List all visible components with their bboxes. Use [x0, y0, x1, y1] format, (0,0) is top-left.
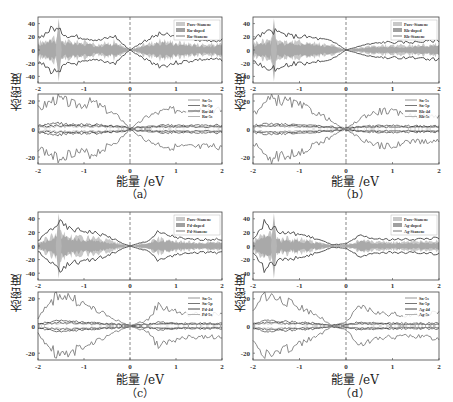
dos-chart-b: 40200-20-40-2-1012Pure-StaneneRh-dopedRh… [227, 0, 453, 200]
x-tick-label: 0 [128, 85, 132, 93]
x-tick-label: -1 [297, 282, 303, 290]
legend-entry: Pure-Stanene [404, 217, 428, 222]
y-tick-label: 40 [28, 20, 36, 28]
x-tick-label: -2 [35, 282, 41, 290]
y-tick-label: -20 [26, 60, 36, 68]
y-axis-label-b: 态密度 [232, 72, 249, 111]
legend-entry: Rh-5s [419, 114, 430, 119]
legend-entry: Ru-doped [187, 28, 205, 33]
y-tick-label: 0 [247, 47, 251, 55]
x-tick-label: -2 [35, 363, 41, 371]
x-tick-label: 1 [391, 85, 395, 93]
tdos-legend: Pure-StaneneRh-dopedRh-Stanene [391, 20, 437, 40]
x-tick-label: -1 [81, 167, 87, 175]
panel-a: 40200-20-40-2-1012Pure-StaneneRu-dopedRu… [0, 0, 230, 200]
x-tick-label: 2 [220, 167, 224, 175]
legend-entry: Pd-5s [202, 312, 212, 317]
y-tick-label: 20 [243, 229, 251, 237]
y-tick-label: 20 [28, 295, 36, 303]
x-tick-label: 2 [437, 363, 441, 371]
caption-b: （b） [325, 185, 385, 201]
x-tick-label: -2 [250, 282, 256, 290]
legend-entry: Pd-Stanene [187, 229, 208, 234]
pdos-axes: 200-20-2-1012Sn-5sSn-5pPd-4dPd-5s [26, 292, 225, 371]
pdos-legend: Sn-5sSn-5pPd-4dPd-5s [186, 294, 220, 318]
legend-entry: Sn-5s [202, 98, 212, 103]
y-tick-label: 0 [247, 323, 251, 331]
y-tick-label: 0 [32, 126, 36, 134]
y-tick-label: 40 [243, 215, 251, 223]
y-tick-label: -20 [26, 256, 36, 264]
dos-chart-a: 40200-20-40-2-1012Pure-StaneneRu-dopedRu… [0, 0, 230, 200]
pdos-legend: Sn-5sSn-5pRh-4dRh-5s [403, 96, 437, 120]
x-tick-label: -1 [81, 363, 87, 371]
y-axis-label-d: 态密度 [232, 273, 249, 312]
pdos-axes: 200-20-2-1012Sn-5sSn-5pRh-4dRh-5s [241, 94, 442, 175]
legend-entry: Ru-4d [202, 109, 214, 114]
y-tick-label: -40 [26, 270, 36, 278]
legend-entry: Rh-4d [419, 109, 431, 114]
x-tick-label: 0 [344, 85, 348, 93]
tdos-legend: Pure-StaneneAg-dopedAg-Stanene [391, 215, 437, 235]
caption-d: （d） [325, 384, 385, 400]
legend-entry: Ag-doped [404, 223, 422, 228]
y-tick-label: 40 [243, 20, 251, 28]
tdos-axes: 40200-20-40-2-1012Pure-StaneneAg-dopedAg… [241, 212, 442, 290]
x-tick-label: 2 [437, 282, 441, 290]
pdos-axes: 200-20-2-1012Sn-5sSn-5pAg-4dAg-5s [241, 292, 442, 371]
y-tick-label: -20 [241, 350, 251, 358]
pdos-legend: Sn-5sSn-5pRu-4dRu-5s [186, 96, 220, 120]
y-tick-label: 0 [32, 323, 36, 331]
x-tick-label: -1 [297, 85, 303, 93]
tdos-axes: 40200-20-40-2-1012Pure-StanenePd-dopedPd… [26, 212, 225, 290]
y-tick-label: 0 [247, 126, 251, 134]
y-tick-label: -40 [26, 73, 36, 81]
y-tick-label: 20 [28, 98, 36, 106]
caption-c: （c） [110, 384, 170, 400]
legend-entry: Sn-5s [202, 296, 212, 301]
legend-entry: Ru-Stanene [187, 34, 208, 39]
x-tick-label: -2 [250, 167, 256, 175]
x-tick-label: 2 [437, 167, 441, 175]
dos-peak [271, 18, 277, 81]
legend-entry: Rh-Stanene [404, 34, 425, 39]
legend-entry: Sn-5p [202, 103, 213, 108]
tdos-axes: 40200-20-40-2-1012Pure-StaneneRu-dopedRu… [26, 17, 225, 93]
x-tick-label: 1 [391, 282, 395, 290]
legend-entry: Sn-5p [419, 103, 430, 108]
x-tick-label: 2 [437, 85, 441, 93]
legend-entry: Pure-Stanene [187, 217, 211, 222]
y-tick-label: -20 [26, 350, 36, 358]
legend-entry: Pd-4d [202, 307, 213, 312]
y-tick-label: 0 [32, 47, 36, 55]
tdos-axes: 40200-20-40-2-1012Pure-StaneneRh-dopedRh… [241, 17, 442, 93]
legend-entry: Ag-Stanene [404, 229, 425, 234]
y-tick-label: 20 [28, 229, 36, 237]
dos-peak [271, 213, 277, 278]
pdos-axes: 200-20-2-1012Sn-5sSn-5pRu-4dRu-5s [26, 94, 225, 175]
y-tick-label: -20 [241, 60, 251, 68]
legend-entry: Ag-4d [419, 307, 431, 312]
x-tick-label: 2 [220, 85, 224, 93]
x-tick-label: -2 [250, 85, 256, 93]
x-tick-label: 2 [220, 363, 224, 371]
legend-entry: Sn-5s [419, 296, 429, 301]
x-tick-label: -2 [35, 85, 41, 93]
caption-a: （a） [110, 185, 170, 201]
y-tick-label: -20 [241, 154, 251, 162]
x-tick-label: -2 [250, 363, 256, 371]
x-tick-label: 0 [128, 282, 132, 290]
x-tick-label: -1 [297, 167, 303, 175]
y-tick-label: -20 [26, 154, 36, 162]
legend-entry: Pure-Stanene [404, 22, 428, 27]
x-tick-label: 1 [174, 85, 178, 93]
legend-entry: Ag-5s [419, 312, 430, 317]
legend-entry: Pure-Stanene [187, 22, 211, 27]
x-tick-label: 0 [344, 282, 348, 290]
y-axis-label-c: 态密度 [8, 273, 25, 312]
x-tick-label: 2 [220, 282, 224, 290]
x-tick-label: -1 [81, 85, 87, 93]
y-axis-label-a: 态密度 [8, 72, 25, 111]
pdos-legend: Sn-5sSn-5pAg-4dAg-5s [403, 294, 437, 318]
legend-entry: Ru-5s [202, 114, 213, 119]
